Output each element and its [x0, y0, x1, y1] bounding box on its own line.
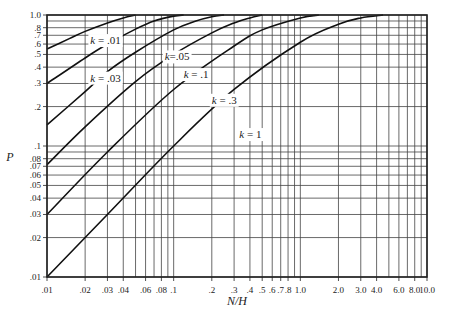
y-tick-label: .08	[30, 154, 42, 164]
series-curve	[47, 15, 262, 165]
x-tick-label: .1	[170, 285, 177, 295]
curve-label: k = 1	[239, 128, 261, 140]
y-tick-label: .05	[30, 180, 42, 190]
y-tick-label: .01	[30, 272, 41, 282]
y-tick-label: .06	[30, 170, 42, 180]
y-tick-label: .2	[34, 102, 41, 112]
curve-label: k = .01	[90, 34, 120, 46]
series-curve	[47, 15, 319, 214]
x-axis-title: N/H	[226, 294, 248, 308]
y-tick-label: .02	[30, 233, 41, 243]
x-tick-label: .02	[80, 285, 91, 295]
curve-label: k = .1	[184, 68, 209, 80]
x-tick-label: .7	[277, 285, 284, 295]
x-tick-label: .5	[259, 285, 266, 295]
y-tick-label: .5	[34, 49, 41, 59]
x-tick-label: .01	[41, 285, 52, 295]
x-axis-ticks: .01.02.03.04.06.08.1.2.3.4.5.6.7.81.02.0…	[41, 277, 435, 295]
y-tick-label: .1	[34, 141, 41, 151]
y-tick-label: .8	[34, 23, 41, 33]
y-axis-title: P	[5, 150, 14, 164]
x-tick-label: 2.0	[333, 285, 345, 295]
y-axis-ticks: .01.02.03.04.05.06.07.08.1.2.3.4.5.6.7.8…	[30, 10, 47, 282]
x-tick-label: 3.0	[355, 285, 367, 295]
x-tick-label: .06	[140, 285, 152, 295]
x-tick-label: .08	[156, 285, 168, 295]
log-log-chart: .01.02.03.04.06.08.1.2.3.4.5.6.7.81.02.0…	[0, 0, 450, 321]
x-tick-label: 10.0	[419, 285, 435, 295]
x-tick-label: 4.0	[371, 285, 383, 295]
curve-label: k=.05	[165, 50, 190, 62]
y-tick-label: 1.0	[30, 10, 42, 20]
y-tick-label: .03	[30, 209, 42, 219]
x-tick-label: 1.0	[295, 285, 307, 295]
grid-lines	[47, 15, 427, 277]
y-tick-label: .3	[34, 78, 41, 88]
x-tick-label: .04	[118, 285, 130, 295]
y-tick-label: .04	[30, 193, 42, 203]
curve-label: k = .3	[212, 94, 237, 106]
x-tick-label: 6.0	[393, 285, 405, 295]
y-tick-label: .6	[34, 39, 41, 49]
x-tick-label: .03	[102, 285, 114, 295]
x-tick-label: .6	[269, 285, 276, 295]
x-tick-label: .8	[285, 285, 292, 295]
x-tick-label: .4	[247, 285, 254, 295]
curve-label: k = .03	[90, 72, 121, 84]
y-tick-label: .4	[34, 62, 41, 72]
x-tick-label: .2	[208, 285, 215, 295]
